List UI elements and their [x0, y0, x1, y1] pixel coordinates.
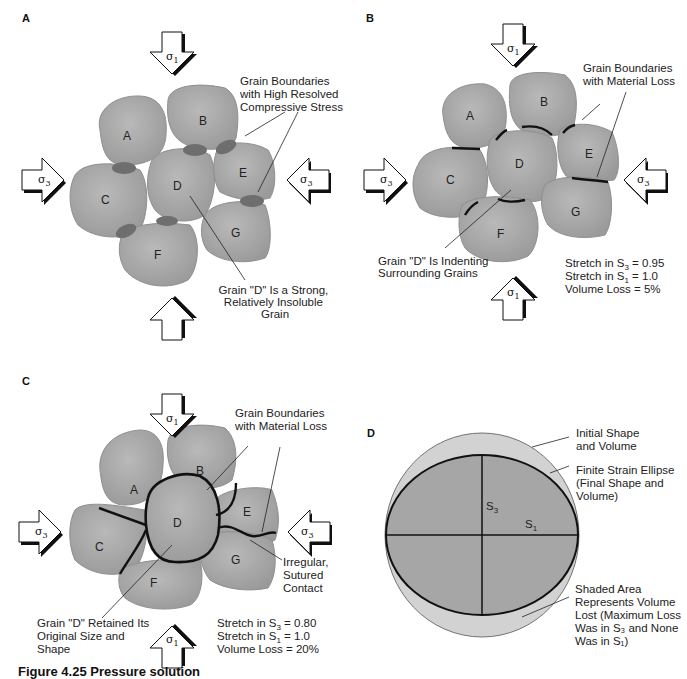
grain-label-d: D [173, 516, 182, 530]
panel-d-label: D [367, 427, 375, 439]
panel-d: D S3 S1 Initial Shape and Volume Finite … [367, 427, 684, 647]
grain-label-g: G [231, 226, 240, 240]
panel-a: A A B C D E F G σ1 σ3 [22, 12, 343, 340]
note-material-loss: Grain Boundaries with Material Loss [234, 407, 328, 432]
grain-label-c: C [446, 173, 455, 187]
grain-f [119, 559, 202, 609]
grain-label-c: C [95, 540, 104, 554]
panel-b-label: B [366, 12, 374, 24]
grain-d [146, 474, 220, 562]
note-shaded-area: Shaded Area Represents Volume Lost (Maxi… [575, 583, 684, 647]
sigma1-bottom-arrow-icon [150, 296, 197, 340]
note-grain-d-strong: Grain "D" Is a Strong, Relatively Insolu… [219, 284, 332, 320]
grain-label-d: D [173, 179, 182, 193]
grain-label-a: A [130, 483, 138, 497]
grain-label-f: F [154, 248, 161, 262]
grain-label-b: B [199, 114, 207, 128]
stats-panel-b: Stretch in S3 = 0.95 Stretch in S1 = 1.0… [565, 257, 668, 295]
panel-a-label: A [22, 12, 30, 24]
figure-caption: Figure 4.25 Pressure solution [18, 664, 200, 679]
grain-label-b: B [196, 464, 204, 478]
note-finite-strain-ellipse: Finite Strain Ellipse (Final Shape and V… [576, 464, 678, 502]
panel-b: B A B C D E F G σ1 σ1 σ [364, 12, 676, 320]
note-initial-shape: Initial Shape and Volume [576, 427, 643, 452]
stats-panel-c: Stretch in S3 = 0.80 Stretch in S1 = 1.0… [217, 617, 320, 655]
grain-label-c: C [101, 193, 110, 207]
grain-a [99, 96, 166, 165]
grain-label-f: F [497, 227, 504, 241]
panel-c: C A B C D E F G σ1 σ1 σ3 σ3 [19, 375, 332, 668]
grain-label-a: A [466, 109, 474, 123]
grain-label-b: B [540, 95, 548, 109]
note-material-loss: Grain Boundaries with Material Loss [582, 62, 676, 87]
grain-label-g: G [571, 205, 580, 219]
note-sutured-contact: Irregular, Sutured Contact [283, 556, 332, 594]
grain-label-e: E [243, 505, 251, 519]
grain-label-g: G [231, 553, 240, 567]
note-compressive-stress: Grain Boundaries with High Resolved Comp… [239, 75, 343, 113]
grain-label-d: D [515, 157, 524, 171]
note-grain-d-indenting: Grain "D" Is Indenting Surrounding Grain… [378, 255, 492, 279]
grain-label-f: F [150, 576, 157, 590]
note-grain-d-retained: Grain "D" Retained Its Original Size and… [37, 617, 153, 655]
grain-label-e: E [585, 147, 593, 161]
grain-label-a: A [123, 129, 131, 143]
grain-label-e: E [239, 166, 247, 180]
panel-c-label: C [22, 375, 30, 387]
